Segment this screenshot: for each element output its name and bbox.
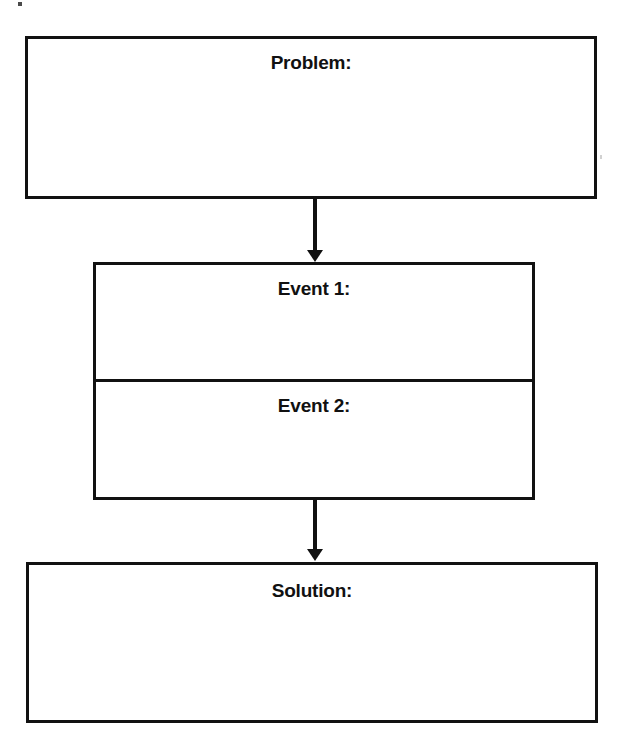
event-2-label: Event 2: [96,395,532,417]
arrow-head [307,549,323,561]
arrow-stem [313,198,317,251]
arrow-problem-to-event1-icon [307,198,323,264]
scan-artifact-speck [18,2,22,6]
graphic-organizer-page: Problem: Event 1: Event 2: Solution: [0,0,624,737]
event-1-cell[interactable]: Event 1: [96,265,532,382]
event-2-cell[interactable]: Event 2: [96,382,532,497]
events-box: Event 1: Event 2: [93,262,535,500]
arrow-stem [313,499,317,550]
problem-box[interactable]: Problem: [25,36,597,199]
solution-label: Solution: [29,580,595,602]
event-1-label: Event 1: [96,278,532,300]
problem-label: Problem: [28,52,594,74]
arrow-event2-to-solution-icon [307,499,323,564]
arrow-head [307,250,323,262]
solution-box[interactable]: Solution: [26,562,598,723]
scan-artifact-tick [600,155,602,159]
